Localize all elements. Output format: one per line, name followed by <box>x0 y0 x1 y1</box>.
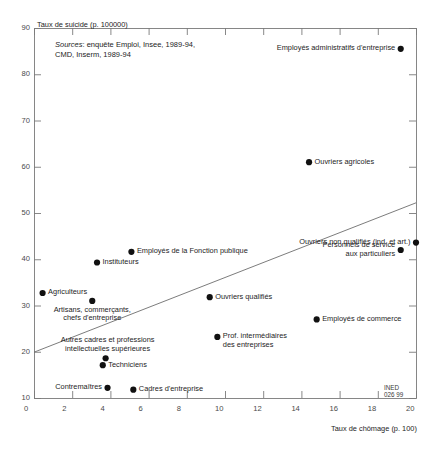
ined-credit-code: 026 99 <box>384 391 403 398</box>
point-label: Agriculteurs <box>48 288 87 297</box>
y-axis-title: Taux de suicide (p. 100000) <box>37 20 128 29</box>
y-tick-label: 50 <box>14 208 30 217</box>
data-point[interactable] <box>94 259 100 265</box>
ined-credit: INED 026 99 <box>384 384 403 399</box>
point-label: Autres cadres et professions intellectue… <box>48 336 168 353</box>
source-note-keyword: Sources <box>55 40 83 49</box>
data-point[interactable] <box>398 46 404 52</box>
x-tick-label: 6 <box>139 404 159 413</box>
x-tick-label: 2 <box>62 404 82 413</box>
y-tick-label: 80 <box>14 69 30 78</box>
source-note-line2: CMD, Inserm, 1989-94 <box>55 50 131 59</box>
data-point[interactable] <box>314 316 320 322</box>
y-tick-label: 20 <box>14 347 30 356</box>
point-label: Ouvriers qualifiés <box>215 293 272 302</box>
data-point[interactable] <box>100 362 106 368</box>
point-label: Employés de commerce <box>322 315 401 324</box>
point-label: Personnels de service aux particuliers <box>323 241 396 258</box>
y-tick-label: 10 <box>14 393 30 402</box>
data-point[interactable] <box>104 385 110 391</box>
y-tick-label: 40 <box>14 254 30 263</box>
data-point[interactable] <box>128 249 134 255</box>
x-tick-label: 18 <box>368 404 388 413</box>
data-point[interactable] <box>413 240 419 246</box>
y-tick-label: 90 <box>14 23 30 32</box>
point-label: Cadres d'entreprise <box>139 385 203 394</box>
data-point[interactable] <box>398 247 404 253</box>
data-point[interactable] <box>39 290 45 296</box>
point-label: Contremaîtres <box>55 383 102 392</box>
x-tick-label: 0 <box>24 404 44 413</box>
point-label: Employés administratifs d'entreprise <box>277 44 395 53</box>
trend-line <box>34 203 416 352</box>
data-point[interactable] <box>130 387 136 393</box>
suicide-unemployment-scatter-figure: Taux de suicide (p. 100000) Taux de chôm… <box>0 0 438 449</box>
source-note-line1: : enquête Emploi, Insee, 1989-94, <box>83 40 196 49</box>
data-point[interactable] <box>89 298 95 304</box>
source-note: Sources: enquête Emploi, Insee, 1989-94,… <box>55 40 195 59</box>
x-tick-label: 8 <box>177 404 197 413</box>
x-tick-label: 20 <box>406 404 426 413</box>
x-tick-label: 4 <box>100 404 120 413</box>
data-point[interactable] <box>306 159 312 165</box>
data-point[interactable] <box>207 294 213 300</box>
x-axis-title: Taux de chômage (p. 100) <box>331 424 417 433</box>
y-tick-label: 70 <box>14 116 30 125</box>
y-tick-label: 60 <box>14 162 30 171</box>
point-label: Techniciens <box>108 361 147 370</box>
x-tick-label: 12 <box>253 404 273 413</box>
data-point[interactable] <box>214 334 220 340</box>
x-tick-label: 16 <box>330 404 350 413</box>
point-label: Employés de la Fonction publique <box>137 247 248 256</box>
point-label: Ouvriers agricoles <box>315 158 375 167</box>
x-tick-label: 10 <box>215 404 235 413</box>
point-label: Prof. intermédiaires des entreprises <box>223 332 287 349</box>
x-tick-label: 14 <box>291 404 311 413</box>
point-label: Artisans, commerçants, chefs d'entrepris… <box>44 306 140 323</box>
point-label: Instituteurs <box>103 258 139 267</box>
ined-credit-name: INED <box>384 384 399 391</box>
y-tick-label: 30 <box>14 301 30 310</box>
